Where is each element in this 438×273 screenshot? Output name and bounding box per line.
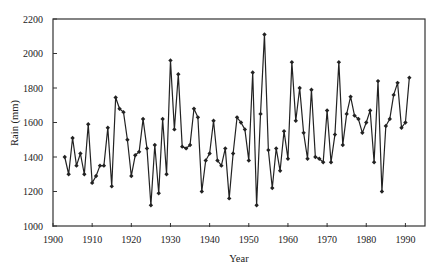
data-series xyxy=(63,32,412,207)
y-tick-label: 2200 xyxy=(23,14,43,25)
y-tick-label: 1400 xyxy=(23,152,43,163)
data-point-marker xyxy=(82,172,86,176)
data-point-marker xyxy=(227,196,231,200)
data-point-marker xyxy=(78,151,82,155)
data-point-marker xyxy=(329,160,333,164)
data-point-marker xyxy=(98,163,102,167)
x-tick-label: 1900 xyxy=(43,234,63,245)
data-point-marker xyxy=(192,107,196,111)
data-point-marker xyxy=(63,155,67,159)
x-tick-label: 1920 xyxy=(121,234,141,245)
data-point-marker xyxy=(223,146,227,150)
x-tick-label: 1910 xyxy=(82,234,102,245)
data-point-marker xyxy=(341,143,345,147)
data-point-marker xyxy=(110,184,114,188)
data-point-marker xyxy=(325,108,329,112)
rainfall-line-chart: 1000120014001600180020002200 19001910192… xyxy=(0,0,438,273)
data-point-marker xyxy=(168,58,172,62)
data-point-marker xyxy=(164,172,168,176)
data-point-marker xyxy=(160,117,164,121)
data-point-marker xyxy=(305,157,309,161)
x-tick-label: 1970 xyxy=(317,234,337,245)
x-axis-title: Year xyxy=(229,253,249,264)
data-point-marker xyxy=(286,157,290,161)
data-point-marker xyxy=(106,125,110,129)
data-point-marker xyxy=(333,132,337,136)
data-point-marker xyxy=(297,86,301,90)
data-point-marker xyxy=(380,189,384,193)
y-axis-ticks: 1000120014001600180020002200 xyxy=(23,14,57,232)
data-point-marker xyxy=(368,108,372,112)
y-tick-label: 1600 xyxy=(23,117,43,128)
data-point-marker xyxy=(282,129,286,133)
data-point-marker xyxy=(344,112,348,116)
data-point-marker xyxy=(391,93,395,97)
data-point-marker xyxy=(231,151,235,155)
y-tick-label: 1800 xyxy=(23,83,43,94)
data-point-marker xyxy=(290,60,294,64)
data-point-marker xyxy=(301,131,305,135)
data-point-marker xyxy=(70,136,74,140)
data-point-marker xyxy=(211,119,215,123)
x-tick-label: 1930 xyxy=(160,234,180,245)
data-point-marker xyxy=(200,189,204,193)
data-point-marker xyxy=(364,120,368,124)
data-point-marker xyxy=(395,81,399,85)
data-point-marker xyxy=(145,146,149,150)
data-point-marker xyxy=(141,117,145,121)
data-point-marker xyxy=(262,32,266,36)
data-point-marker xyxy=(176,72,180,76)
data-point-marker xyxy=(196,115,200,119)
data-point-marker xyxy=(360,131,364,135)
y-tick-label: 1000 xyxy=(23,221,43,232)
data-point-marker xyxy=(348,94,352,98)
x-tick-label: 1980 xyxy=(356,234,376,245)
data-point-marker xyxy=(372,160,376,164)
data-point-marker xyxy=(247,158,251,162)
data-point-marker xyxy=(294,119,298,123)
data-point-marker xyxy=(258,112,262,116)
x-tick-label: 1940 xyxy=(200,234,220,245)
data-point-marker xyxy=(278,169,282,173)
data-point-marker xyxy=(254,203,258,207)
data-point-marker xyxy=(86,122,90,126)
y-tick-label: 1200 xyxy=(23,186,43,197)
y-axis-title: Rain (mm) xyxy=(9,100,21,146)
x-tick-label: 1990 xyxy=(395,234,415,245)
x-tick-label: 1950 xyxy=(239,234,259,245)
data-point-marker xyxy=(251,70,255,74)
data-point-marker xyxy=(180,144,184,148)
data-point-marker xyxy=(125,138,129,142)
data-point-marker xyxy=(66,172,70,176)
data-point-marker xyxy=(102,163,106,167)
data-point-marker xyxy=(309,88,313,92)
data-point-marker xyxy=(337,60,341,64)
data-point-marker xyxy=(407,75,411,79)
data-point-marker xyxy=(270,186,274,190)
data-point-marker xyxy=(376,79,380,83)
x-tick-label: 1960 xyxy=(278,234,298,245)
y-tick-label: 2000 xyxy=(23,48,43,59)
data-point-marker xyxy=(129,174,133,178)
data-point-marker xyxy=(274,146,278,150)
data-point-marker xyxy=(266,148,270,152)
data-point-marker xyxy=(313,155,317,159)
data-point-marker xyxy=(113,95,117,99)
data-point-marker xyxy=(149,203,153,207)
data-point-marker xyxy=(153,143,157,147)
data-point-marker xyxy=(74,163,78,167)
data-point-marker xyxy=(172,127,176,131)
data-point-marker xyxy=(157,191,161,195)
